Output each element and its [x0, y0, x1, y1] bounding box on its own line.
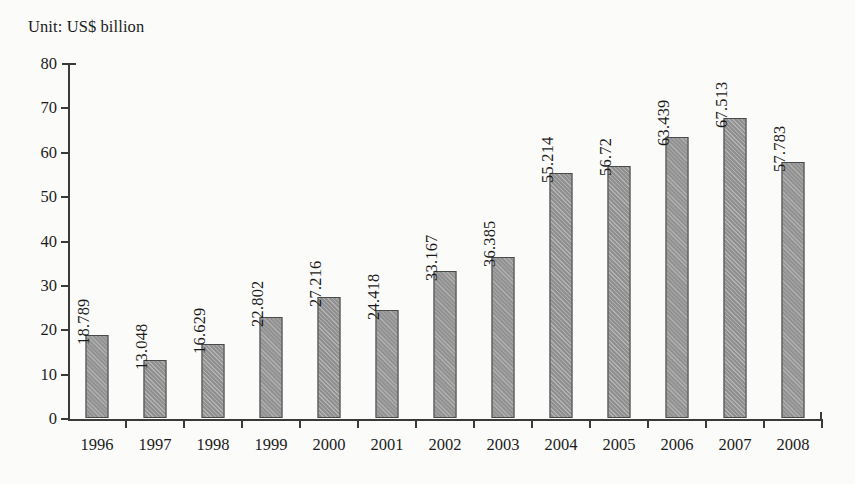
x-axis-tick	[705, 419, 707, 428]
bar	[608, 166, 631, 418]
x-axis-category-label: 1996	[81, 436, 114, 454]
bar	[492, 257, 515, 418]
x-axis-tick	[415, 419, 417, 428]
plot-area: 80706050403020100 18.78913.04816.62922.8…	[68, 64, 822, 420]
bar-value-label: 36.385	[482, 220, 497, 267]
x-axis-tick	[763, 419, 765, 428]
bar	[550, 173, 573, 418]
y-axis-tick	[61, 241, 70, 243]
bar	[666, 137, 689, 419]
y-axis-tick-label: 20	[41, 322, 58, 338]
x-axis-category-label: 2008	[777, 436, 810, 454]
y-axis-tick-label: 40	[41, 234, 58, 250]
x-axis-category-label: 2004	[545, 436, 578, 454]
bar-value-label: 24.418	[366, 273, 381, 320]
x-axis-tick	[357, 419, 359, 428]
y-axis-tick	[61, 418, 70, 420]
x-axis-tick	[241, 419, 243, 428]
bar-value-label: 67.513	[714, 82, 729, 129]
x-axis-category-label: 2007	[719, 436, 752, 454]
x-axis-tick	[589, 419, 591, 428]
y-axis-tick-label: 0	[49, 411, 57, 427]
y-axis-tick	[61, 196, 70, 198]
bar-value-label: 55.214	[540, 136, 555, 183]
bar-value-label: 13.048	[134, 324, 149, 371]
y-axis-tick-label: 50	[41, 189, 58, 205]
x-axis-tick	[531, 419, 533, 428]
y-axis-tick-label: 10	[41, 367, 58, 383]
y-axis-tick	[61, 329, 70, 331]
bar	[434, 271, 457, 418]
bar	[782, 162, 805, 418]
bar-value-label: 56.72	[598, 138, 613, 176]
bar-value-label: 18.789	[76, 298, 91, 345]
x-axis-tick	[647, 419, 649, 428]
x-axis-tick	[125, 419, 127, 428]
bar	[376, 310, 399, 418]
x-axis-end-cap	[820, 412, 822, 421]
bar	[202, 344, 225, 418]
y-axis-tick	[61, 152, 70, 154]
y-axis-tick-label: 70	[41, 100, 58, 116]
x-axis-tick	[183, 419, 185, 428]
chart-unit-label: Unit: US$ billion	[28, 17, 144, 37]
y-axis-tick	[62, 63, 76, 65]
y-axis-tick-label: 30	[41, 278, 58, 294]
x-axis-category-label: 2005	[603, 436, 636, 454]
y-axis-tick-label: 80	[41, 56, 58, 72]
x-axis-category-label: 1998	[197, 436, 230, 454]
x-axis-category-label: 2006	[661, 436, 694, 454]
x-axis-category-label: 1999	[255, 436, 288, 454]
bar-value-label: 16.629	[192, 308, 207, 355]
bar	[260, 317, 283, 418]
x-axis-category-label: 1997	[139, 436, 172, 454]
bar-value-label: 22.802	[250, 280, 265, 327]
bar-chart: Unit: US$ billion 80706050403020100 18.7…	[0, 0, 855, 484]
x-axis-line	[68, 419, 822, 421]
bar-value-label: 57.783	[772, 125, 787, 172]
x-axis-category-label: 2003	[487, 436, 520, 454]
y-axis-line	[68, 64, 70, 421]
x-axis-category-label: 2002	[429, 436, 462, 454]
bar-value-label: 63.439	[656, 100, 671, 147]
x-axis-category-label: 2000	[313, 436, 346, 454]
x-axis-tick	[473, 419, 475, 428]
bar	[86, 335, 109, 418]
y-axis-tick	[61, 107, 70, 109]
x-axis-tick	[299, 419, 301, 428]
x-axis-category-label: 2001	[371, 436, 404, 454]
bar-value-label: 33.167	[424, 234, 439, 281]
y-axis-tick	[61, 374, 70, 376]
bar	[318, 297, 341, 418]
y-axis-tick-label: 60	[41, 145, 58, 161]
y-axis-tick	[61, 285, 70, 287]
bar	[724, 118, 747, 418]
bar-value-label: 27.216	[308, 261, 323, 308]
